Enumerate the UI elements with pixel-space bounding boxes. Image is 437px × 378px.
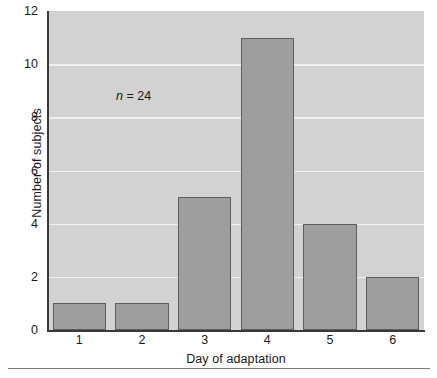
x-tick-label: 1: [76, 334, 83, 347]
y-tick-label: 12: [0, 5, 44, 18]
bar-slot: [115, 11, 169, 330]
bar-slot: [366, 11, 420, 330]
y-axis-tick-labels: 12 10 8 6 4 2 0: [0, 11, 44, 330]
bar[interactable]: [303, 224, 357, 330]
x-tick-label: 4: [264, 334, 271, 347]
bar[interactable]: [53, 303, 107, 330]
y-tick-label: 8: [0, 111, 44, 124]
x-axis-label: Day of adaptation: [48, 352, 424, 366]
bar[interactable]: [241, 38, 295, 330]
y-axis-line: [47, 11, 49, 331]
y-tick-label: 0: [0, 324, 44, 337]
y-tick-label: 2: [0, 271, 44, 284]
bar-slot: [303, 11, 357, 330]
x-axis-line: [47, 330, 425, 332]
x-axis-tick-labels: 123456: [48, 334, 424, 352]
bar-slot: [241, 11, 295, 330]
y-tick-label: 6: [0, 164, 44, 177]
x-tick-label: 3: [201, 334, 208, 347]
sample-size-value: = 24: [123, 89, 151, 103]
x-tick-label: 6: [389, 334, 396, 347]
footer-divider: [8, 368, 430, 369]
bar[interactable]: [115, 303, 169, 330]
bar-slot: [178, 11, 232, 330]
y-tick-label: 10: [0, 58, 44, 71]
bar[interactable]: [366, 277, 420, 330]
sample-size-variable: n: [116, 89, 123, 103]
sample-size-annotation: n = 24: [116, 89, 151, 103]
bar-chart-figure: Number of subjects 12 10 8 6 4 2 0 n = 2…: [0, 0, 437, 378]
bar[interactable]: [178, 197, 232, 330]
bar-slot: [53, 11, 107, 330]
x-tick-label: 5: [327, 334, 334, 347]
x-tick-label: 2: [139, 334, 146, 347]
y-tick-label: 4: [0, 217, 44, 230]
plot-area: n = 24: [48, 11, 424, 330]
bar-group: [48, 11, 424, 330]
